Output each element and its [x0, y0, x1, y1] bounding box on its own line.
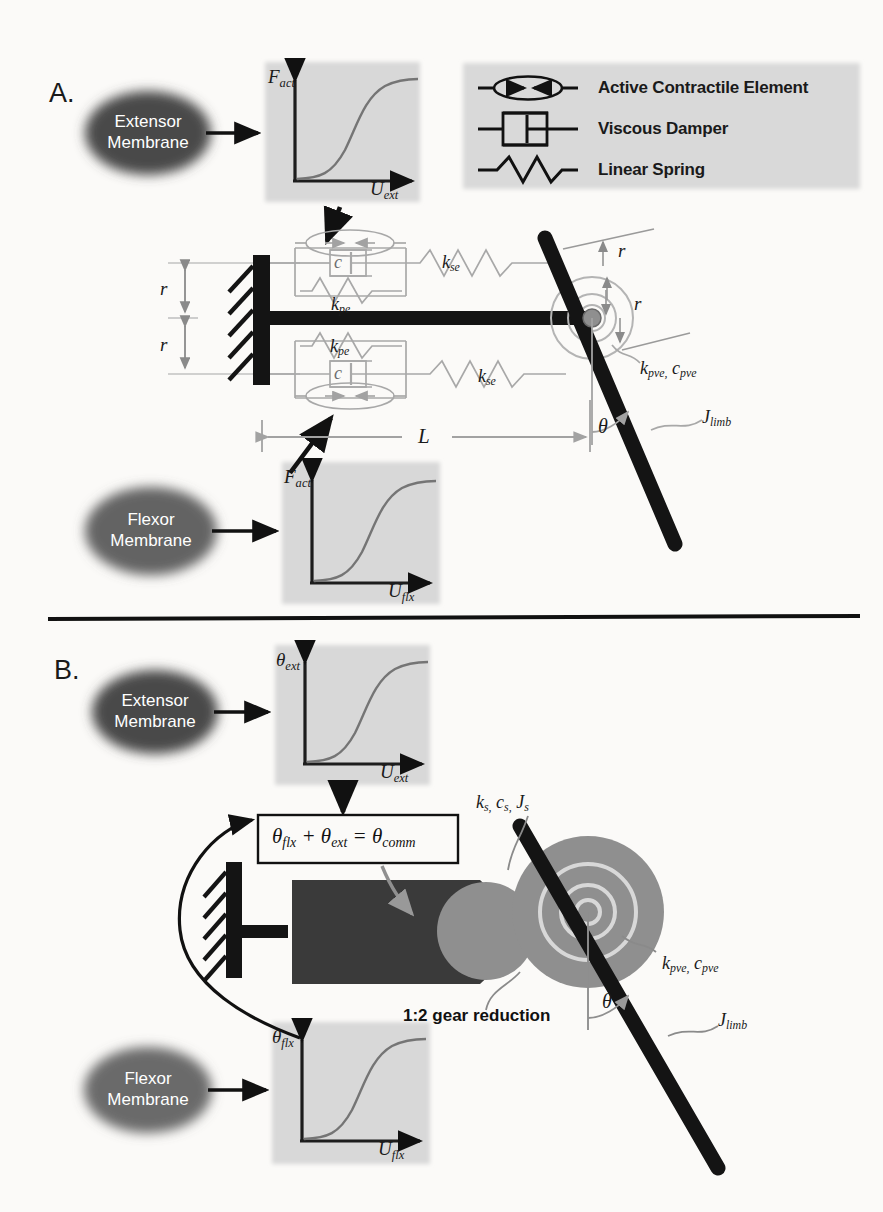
panelA-flexor-plot-xlabel: Uflx — [388, 580, 414, 605]
panelB-flexor-plot-xlabel: Uflx — [378, 1138, 404, 1163]
symbol-k: k — [476, 792, 484, 812]
bubble-line-1: Flexor — [66, 509, 236, 530]
panelA-rigid-bar — [268, 311, 586, 325]
panelB-jlimb-leader — [668, 1026, 718, 1036]
symbol: k — [330, 336, 338, 356]
panelB-extensor-plot-xlabel: Uext — [380, 761, 408, 786]
panelA-kpe-top-label: kpe — [331, 294, 350, 317]
legend-label-viscous-damper: Viscous Damper — [598, 119, 728, 139]
panel-label-b: B. — [54, 655, 80, 686]
subscript-pve2: pve — [702, 961, 718, 975]
ylabel-symbol: θ — [276, 649, 285, 670]
subscript: pe — [338, 344, 349, 358]
ylabel-subscript: ext — [285, 659, 300, 673]
ylabel-symbol: θ — [272, 1026, 281, 1047]
symbol-k: k — [640, 358, 648, 378]
ylabel-subscript: act — [296, 476, 311, 490]
xlabel-subscript: flx — [402, 590, 415, 604]
panelB-servo-params-label: ks, cs, Js — [476, 792, 529, 815]
subscript: limb — [710, 415, 731, 429]
panelB-flexor-plot-ylabel: θflx — [272, 1026, 294, 1051]
symbol: J — [718, 1010, 726, 1030]
symbol: k — [442, 252, 450, 272]
subscript-s3: s — [524, 800, 529, 814]
panelB-gear-reduction-label: 1:2 gear reduction — [403, 1006, 550, 1026]
panelA-flexor-plot-ylabel: Fact — [284, 466, 311, 491]
bubble-line-2: Membrane — [63, 132, 233, 153]
diagram-canvas — [0, 0, 883, 1212]
eq-result-symbol: θ — [372, 824, 382, 848]
panelA-kse-top-label: kse — [442, 252, 460, 275]
panelB-limb-inertia-label: Jlimb — [718, 1010, 747, 1033]
eq-operator: + — [301, 824, 315, 848]
ylabel-subscript: flx — [281, 1036, 294, 1050]
subscript: pe — [339, 302, 350, 316]
bubble-line-2: Membrane — [66, 530, 236, 551]
panelA-extensor-membrane-label: Extensor Membrane — [63, 111, 233, 154]
legend-label-active-contractile-element: Active Contractile Element — [598, 78, 808, 98]
eq-term1-symbol: θ — [272, 824, 282, 848]
subscript-pve: pve, — [670, 961, 689, 975]
panelA-wall-hatching — [229, 266, 253, 380]
xlabel-symbol: U — [380, 761, 394, 782]
xlabel-subscript: ext — [384, 188, 399, 202]
panelA-muscle-length-label: L — [418, 424, 430, 449]
subscript-s2: s, — [504, 800, 512, 814]
symbol-J: J — [516, 792, 524, 812]
panelB-extensor-membrane-label: Extensor Membrane — [70, 690, 240, 733]
eq-result-subscript: comm — [382, 835, 415, 850]
panelA-kpe-bottom-label: kpe — [330, 336, 349, 359]
symbol-c: c — [672, 358, 680, 378]
panelB-extensor-plot-ylabel: θext — [276, 649, 300, 674]
panelA-extensor-plot-xlabel: Uext — [370, 178, 398, 203]
panelA-moment-arm-bottom-label: r — [160, 334, 167, 356]
panelA-kse-bottom-label: kse — [478, 366, 496, 389]
panelB-equation-text: θflx + θext = θcomm — [272, 824, 415, 851]
eq-equals: = — [353, 824, 367, 848]
panelB-flexor-plot-panel — [272, 1022, 430, 1164]
panelB-wall — [226, 862, 242, 978]
panelA-limb-inertia-label: Jlimb — [702, 407, 731, 430]
bubble-line-1: Extensor — [70, 690, 240, 711]
eq-term2-symbol: θ — [321, 824, 331, 848]
panelA-extensor-plot-ylabel: Fact — [268, 66, 295, 91]
xlabel-symbol: U — [378, 1138, 392, 1159]
subscript-s1: s, — [484, 800, 492, 814]
panelA-joint-angle-label: θ — [598, 415, 608, 438]
xlabel-subscript: ext — [394, 771, 409, 785]
panelA-wall — [253, 255, 270, 385]
panelA-passive-viscoelastic-label: kpve, cpve — [640, 358, 696, 381]
symbol: J — [702, 407, 710, 427]
ylabel-symbol: F — [268, 66, 280, 87]
bubble-line-1: Extensor — [63, 111, 233, 132]
xlabel-symbol: U — [388, 580, 402, 601]
bubble-line-2: Membrane — [70, 711, 240, 732]
subscript: limb — [726, 1018, 747, 1032]
bubble-line-1: Flexor — [63, 1068, 233, 1089]
symbol-k: k — [662, 953, 670, 973]
panelA-extensor-to-muscle-arrow — [327, 207, 340, 241]
subscript-pve2: pve — [680, 366, 696, 380]
panelB-wall-connector — [240, 925, 288, 938]
panel-divider — [48, 616, 860, 619]
panelB-joint-angle-label: θ — [602, 990, 612, 1013]
panelA-limb-bar — [545, 238, 675, 544]
subscript-pve: pve, — [648, 366, 667, 380]
xlabel-symbol: U — [370, 178, 384, 199]
xlabel-subscript: flx — [392, 1148, 405, 1162]
symbol-c: c — [496, 792, 504, 812]
panelA-upper-series-spring — [406, 250, 560, 276]
panelA-jlimb-leader — [651, 420, 702, 430]
eq-term2-subscript: ext — [331, 835, 347, 850]
panelA-joint-radius-top-label: r — [618, 240, 625, 262]
panelA-flexor-membrane-label: Flexor Membrane — [66, 509, 236, 552]
legend-label-linear-spring: Linear Spring — [598, 160, 705, 180]
panelA-damper-bottom-label: c — [334, 363, 342, 384]
panel-label-a: A. — [49, 78, 75, 109]
ylabel-symbol: F — [284, 466, 296, 487]
subscript: se — [486, 374, 496, 388]
panelB-wall-hatching — [204, 872, 226, 981]
subscript: se — [450, 260, 460, 274]
bubble-line-2: Membrane — [63, 1089, 233, 1110]
panelB-flexor-membrane-label: Flexor Membrane — [63, 1068, 233, 1111]
